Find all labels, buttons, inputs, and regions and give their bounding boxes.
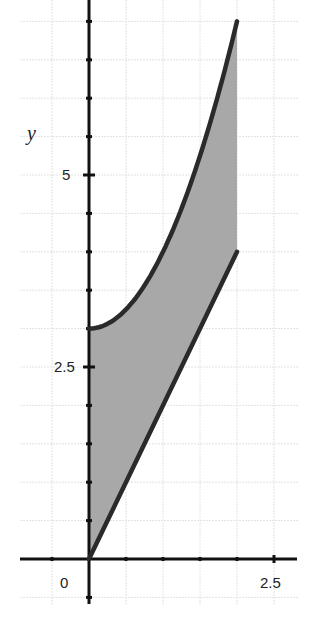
- region-between-curves-chart: y 0 2.5 2.5 5: [0, 0, 309, 620]
- x-tick-label-0: 0: [60, 574, 68, 591]
- x-tick-label-2-5: 2.5: [260, 574, 281, 591]
- y-axis-label: y: [25, 122, 36, 145]
- y-tick-label-2-5: 2.5: [54, 358, 75, 375]
- y-tick-label-5: 5: [62, 166, 70, 183]
